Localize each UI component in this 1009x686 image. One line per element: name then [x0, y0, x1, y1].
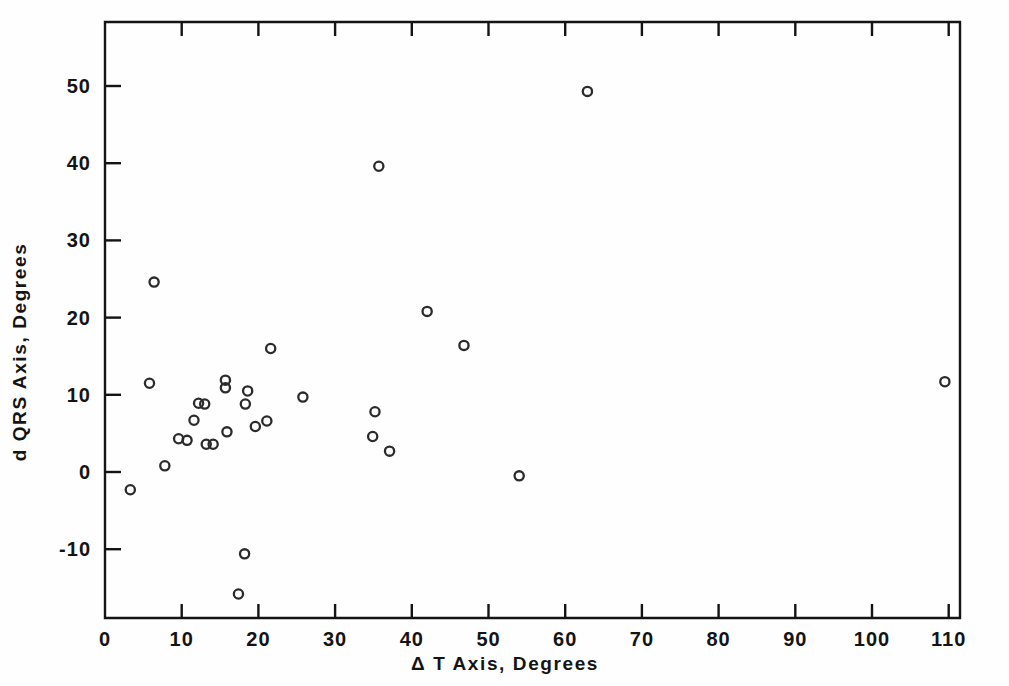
data-point	[423, 307, 432, 316]
x-tick-label: 50	[476, 628, 500, 650]
data-point	[368, 432, 377, 441]
data-point	[241, 399, 250, 408]
data-point	[251, 422, 260, 431]
y-axis-title: d QRS Axis, Degrees	[9, 243, 30, 462]
data-point	[583, 87, 592, 96]
x-tick-label: 0	[99, 628, 111, 650]
x-axis-title: Δ T Axis, Degrees	[411, 653, 599, 674]
chart-figure: 0102030405060708090100110 -1001020304050…	[0, 0, 1009, 686]
data-point	[370, 407, 379, 416]
data-point	[222, 427, 231, 436]
x-tick-label: 90	[783, 628, 807, 650]
y-tick-label: 30	[67, 229, 91, 251]
y-axis-tick-labels: -1001020304050	[59, 75, 91, 560]
x-tick-label: 20	[246, 628, 270, 650]
data-point	[189, 416, 198, 425]
x-tick-label: 70	[630, 628, 654, 650]
data-point	[160, 461, 169, 470]
y-tick-label: 10	[67, 384, 91, 406]
data-point	[234, 589, 243, 598]
plot-frame	[105, 22, 960, 618]
data-point	[240, 549, 249, 558]
data-point	[126, 485, 135, 494]
data-point	[515, 471, 524, 480]
y-axis-ticks	[105, 86, 121, 549]
data-points	[126, 87, 950, 599]
data-point	[459, 341, 468, 350]
x-tick-label: 30	[323, 628, 347, 650]
y-tick-label: 40	[67, 152, 91, 174]
x-tick-label: 60	[553, 628, 577, 650]
x-axis-ticks	[182, 22, 949, 618]
x-tick-label: 110	[931, 628, 966, 650]
y-tick-label: 20	[67, 307, 91, 329]
plot-border	[105, 22, 960, 618]
data-point	[243, 386, 252, 395]
data-point	[374, 162, 383, 171]
x-tick-label: 100	[854, 628, 890, 650]
data-point	[940, 377, 949, 386]
data-point	[298, 393, 307, 402]
x-axis-tick-labels: 0102030405060708090100110	[99, 628, 966, 650]
y-tick-label: 50	[67, 75, 91, 97]
x-tick-label: 80	[706, 628, 730, 650]
data-point	[266, 344, 275, 353]
data-point	[200, 399, 209, 408]
data-point	[145, 379, 154, 388]
data-point	[149, 277, 158, 286]
y-tick-label: 0	[79, 461, 91, 483]
x-tick-label: 40	[400, 628, 424, 650]
data-point	[385, 447, 394, 456]
data-point	[262, 416, 271, 425]
x-tick-label: 10	[170, 628, 194, 650]
scatter-plot-canvas: 0102030405060708090100110 -1001020304050…	[0, 0, 1009, 686]
y-tick-label: -10	[59, 538, 91, 560]
